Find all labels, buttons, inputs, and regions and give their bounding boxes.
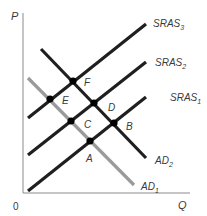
curve-label-ad2: AD2 bbox=[154, 155, 173, 168]
curves-layer bbox=[28, 24, 146, 191]
curve-label-sras2: SRAS2 bbox=[155, 57, 186, 70]
point-label-d: D bbox=[108, 102, 115, 113]
curve-label-sras1: SRAS1 bbox=[170, 92, 201, 105]
equilibrium-point-d bbox=[90, 99, 97, 106]
point-label-a: A bbox=[85, 153, 93, 164]
x-axis-label: Q bbox=[178, 199, 187, 211]
as-ad-diagram: P Q 0 SRAS3SRAS2SRAS1AD2AD1 ABCDEF bbox=[0, 0, 207, 216]
equilibrium-point-e bbox=[46, 95, 53, 102]
point-label-b: B bbox=[126, 121, 133, 132]
curve-sras1 bbox=[28, 97, 146, 191]
equilibrium-point-a bbox=[86, 137, 93, 144]
equilibrium-point-c bbox=[67, 117, 74, 124]
curve-ad1 bbox=[28, 78, 134, 185]
point-label-f: F bbox=[84, 77, 91, 88]
y-axis-label: P bbox=[11, 10, 19, 22]
curve-label-ad1: AD1 bbox=[140, 181, 159, 194]
point-label-e: E bbox=[62, 95, 69, 106]
curve-sras3 bbox=[28, 24, 146, 118]
curve-labels-layer: SRAS3SRAS2SRAS1AD2AD1 bbox=[140, 18, 201, 194]
equilibrium-point-f bbox=[69, 77, 76, 84]
origin-label: 0 bbox=[13, 201, 19, 212]
equilibrium-point-b bbox=[110, 119, 117, 126]
curve-label-sras3: SRAS3 bbox=[153, 18, 184, 31]
point-label-c: C bbox=[84, 119, 92, 130]
